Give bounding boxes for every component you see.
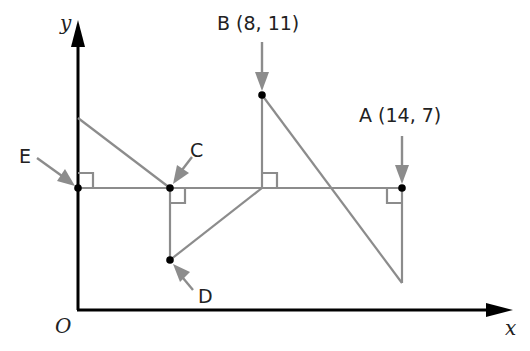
point-D <box>166 256 174 264</box>
coordinate-diagram: y x O B (8, 11) A (14, 7) C D E <box>0 0 530 351</box>
point-E <box>74 184 82 192</box>
point-label-B: B (8, 11) <box>217 12 299 34</box>
right-angle-B-icon <box>262 173 277 188</box>
point-label-C: C <box>190 139 203 161</box>
arrow-B-icon <box>255 72 269 91</box>
arrow-C-icon <box>173 165 189 184</box>
arrow-E-shaft <box>37 158 62 176</box>
line-D-junction <box>170 188 262 260</box>
axes <box>71 20 513 317</box>
point-B <box>258 91 266 99</box>
point-C <box>166 184 174 192</box>
origin-label: O <box>55 314 71 338</box>
y-axis-label: y <box>59 11 72 35</box>
figure-lines <box>78 95 402 283</box>
points <box>74 91 406 264</box>
x-axis-arrow-icon <box>486 303 513 317</box>
point-label-D: D <box>198 285 213 307</box>
point-A <box>398 184 406 192</box>
arrow-D-shaft <box>183 278 193 290</box>
pointer-arrows <box>37 42 409 290</box>
arrow-E-icon <box>57 169 75 186</box>
y-axis-arrow-icon <box>71 20 85 47</box>
point-label-E: E <box>19 145 31 167</box>
point-label-A: A (14, 7) <box>359 104 441 126</box>
arrow-D-icon <box>173 264 190 282</box>
line-to-C <box>78 118 170 188</box>
arrow-A-icon <box>395 165 409 184</box>
x-axis-label: x <box>505 316 516 340</box>
